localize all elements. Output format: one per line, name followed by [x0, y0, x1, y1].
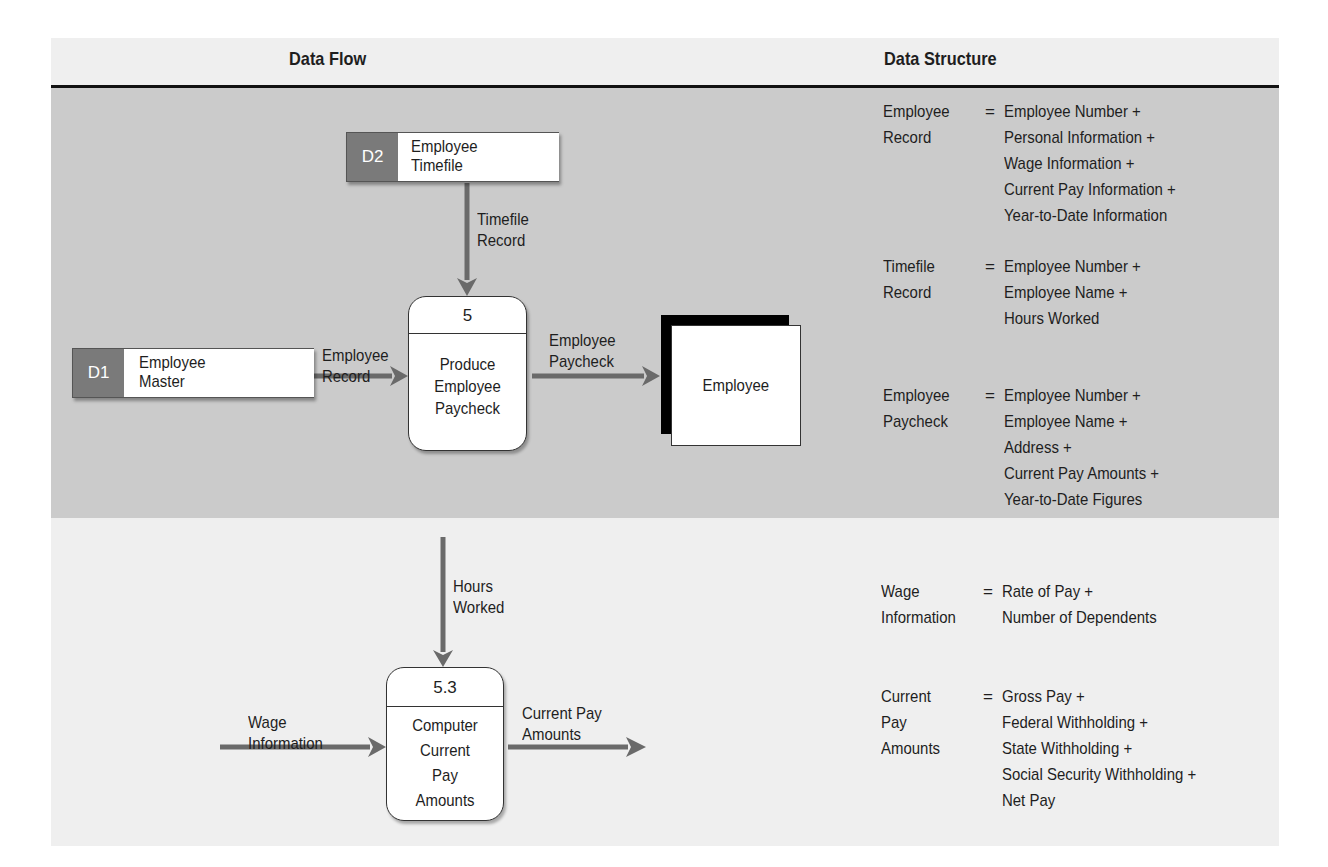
flow-label-hours-worked: Hours Worked: [453, 576, 511, 618]
data-store-d1: D1 Employee Master: [72, 348, 314, 398]
definition-parts: Employee Number + Personal Information +…: [1004, 99, 1199, 229]
arrowhead-employee-paycheck: [642, 366, 660, 386]
process-5-3: 5.3 Computer Current Pay Amounts: [386, 667, 504, 821]
definition-term: Timefile Record: [883, 254, 973, 306]
flow-label-employee-paycheck: Employee Paycheck: [549, 330, 625, 372]
process-name: Computer Current Pay Amounts: [387, 713, 503, 813]
definition-parts: Gross Pay + Federal Withholding + State …: [1002, 684, 1223, 814]
data-store-d2: D2 Employee Timefile: [346, 132, 559, 182]
definition-term: Wage Information: [881, 579, 971, 631]
definition-term: Current Pay Amounts: [881, 684, 971, 762]
definition-parts: Employee Number + Employee Name + Hours …: [1004, 254, 1159, 332]
data-store-id: D2: [347, 133, 398, 181]
arrowhead-hours-worked: [433, 650, 453, 667]
definition-equals: =: [985, 383, 995, 409]
process-5: 5 Produce Employee Paycheck: [408, 296, 527, 451]
flow-label-wage-information: Wage Information: [248, 712, 333, 754]
process-id: 5: [409, 306, 526, 326]
flow-label-current-pay-amounts: Current Pay Amounts: [522, 703, 613, 745]
flow-label-timefile-record: Timefile Record: [477, 209, 536, 251]
definition-parts: Rate of Pay + Number of Dependents: [1002, 579, 1178, 631]
flow-label-employee-record: Employee Record: [322, 345, 398, 387]
definition-term: Employee Record: [883, 99, 973, 151]
definition-equals: =: [983, 579, 993, 605]
definition-term: Employee Paycheck: [883, 383, 973, 435]
process-name: Produce Employee Paycheck: [409, 354, 526, 420]
arrowhead-timefile-record: [457, 278, 477, 296]
arrowhead-current-pay-amounts: [626, 737, 646, 757]
arrowhead-wage-information: [368, 737, 386, 757]
definition-equals: =: [985, 99, 995, 125]
process-id: 5.3: [387, 678, 503, 698]
process-divider: [387, 706, 503, 707]
definition-parts: Employee Number + Employee Name + Addres…: [1004, 383, 1180, 513]
external-entity-employee: Employee: [671, 325, 801, 446]
data-store-name: Employee Timefile: [411, 137, 487, 175]
data-store-id: D1: [73, 349, 124, 397]
process-divider: [409, 333, 526, 334]
definition-equals: =: [983, 684, 993, 710]
data-store-name: Employee Master: [139, 353, 215, 391]
definition-equals: =: [985, 254, 995, 280]
